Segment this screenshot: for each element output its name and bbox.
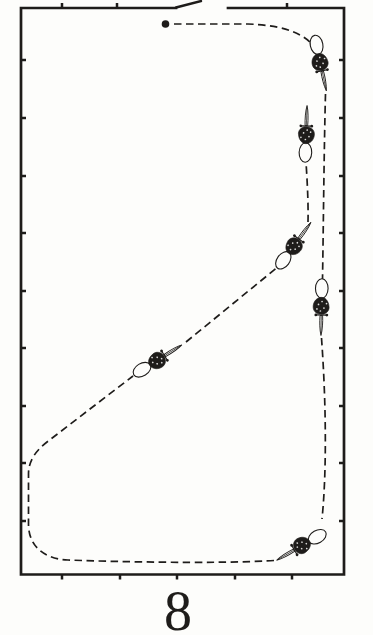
entrance-door-leaf	[176, 1, 201, 8]
riding-path-segment	[186, 266, 279, 342]
handlebar-grip	[325, 314, 328, 317]
front-wheel-rim	[278, 551, 293, 560]
riding-path-segment	[323, 94, 326, 280]
front-wheel-rim	[299, 224, 309, 238]
cyclist-figure	[306, 34, 333, 93]
cyclist-figure	[297, 105, 315, 162]
handlebar-grip	[299, 124, 302, 127]
handlebar-grip	[315, 70, 318, 73]
cyclist-figure	[130, 338, 187, 382]
riding-path-segment	[322, 338, 326, 519]
cyclist-figure	[272, 525, 329, 567]
rink-border	[21, 8, 344, 575]
front-wheel-rim	[165, 346, 180, 355]
start-point	[162, 20, 170, 28]
plate-number: 8	[164, 583, 192, 635]
rider-body	[313, 297, 329, 314]
riding-path-segment	[306, 162, 308, 222]
cyclist-figure	[271, 218, 317, 273]
rear-wheel	[299, 143, 312, 163]
handlebar-grip	[310, 125, 313, 128]
riding-path-segment	[29, 376, 275, 562]
rider-body	[298, 126, 315, 144]
cyclist-figure	[313, 279, 330, 336]
handlebar-grip	[314, 313, 317, 316]
rear-wheel	[308, 34, 324, 56]
riding-path-segment	[174, 24, 310, 42]
rear-wheel	[315, 279, 328, 299]
handlebar-grip	[326, 68, 329, 71]
